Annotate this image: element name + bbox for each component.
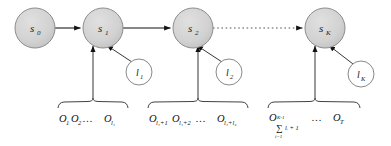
obs-token-sub-2-3: l₁+l₂ — [224, 119, 237, 126]
state-circle-sK — [305, 8, 345, 48]
duration-node-l2[interactable]: l 2 — [216, 59, 242, 85]
brace-segment-3 — [268, 99, 360, 109]
duration-label-l2: l — [226, 67, 229, 78]
observation-text-segment-2: O l₁+1 O l₁+2 … O l₁+l₂ — [149, 113, 237, 126]
state-sublabel-s1: 1 — [105, 29, 109, 37]
obs-token-base-3-0: O — [269, 112, 277, 123]
obs-token-sub-2-0: l₁+1 — [156, 119, 168, 126]
summation-upper-limit: K-1 — [276, 115, 285, 120]
duration-circle-l2 — [216, 59, 242, 85]
state-node-s0[interactable]: s 0 — [15, 8, 55, 48]
state-label-s0: s — [30, 22, 34, 34]
state-node-s1[interactable]: s 1 — [83, 8, 123, 48]
hsmm-state-diagram: s 0 s 1 s 2 s K l 1 l 2 l K O 1 O — [0, 0, 391, 146]
obs-token-sub-2-1: l₁+2 — [179, 119, 191, 126]
duration-arrow-l1 — [107, 46, 132, 63]
duration-circle-l1 — [126, 59, 152, 85]
brace-segment-1 — [58, 99, 128, 109]
state-label-s1: s — [98, 22, 102, 34]
state-sublabel-s0: 0 — [37, 29, 41, 37]
observation-segment-3: O K-1 ∑ i=1 lᵢ + 1 … O T — [268, 99, 360, 140]
state-label-sK: s — [319, 22, 323, 34]
obs-token-sub-1-3: l₁ — [111, 119, 115, 126]
obs-token-base-1-2: … — [83, 113, 92, 124]
observation-segment-2: O l₁+1 O l₁+2 … O l₁+l₂ — [148, 99, 248, 127]
duration-sublabel-lK: K — [360, 75, 366, 82]
state-node-sK[interactable]: s K — [305, 8, 345, 48]
observation-text-segment-1: O 1 O 2 … O l₁ — [59, 113, 115, 126]
state-circle-s0 — [15, 8, 55, 48]
state-sublabel-sK: K — [325, 29, 331, 37]
obs-token-sub-1-0: 1 — [66, 119, 69, 126]
obs-token-base-3-1: … — [312, 112, 321, 123]
summation-body: lᵢ + 1 — [285, 124, 299, 131]
state-label-s2: s — [188, 22, 192, 34]
diagram-canvas: s 0 s 1 s 2 s K l 1 l 2 l K O 1 O — [0, 0, 391, 146]
duration-label-lK: l — [357, 69, 360, 80]
duration-arrow-l2 — [197, 46, 222, 63]
state-node-s2[interactable]: s 2 — [173, 8, 213, 48]
duration-node-l1[interactable]: l 1 — [126, 59, 152, 85]
duration-arrow-lK — [329, 46, 353, 65]
state-sublabel-s2: 2 — [195, 29, 199, 37]
obs-token-base-2-2: … — [196, 113, 205, 124]
state-circle-s1 — [83, 8, 123, 48]
summation-symbol: ∑ — [276, 123, 282, 133]
state-circle-s2 — [173, 8, 213, 48]
duration-node-lK[interactable]: l K — [348, 61, 374, 87]
observation-segment-1: O 1 O 2 … O l₁ — [58, 99, 128, 127]
summation-lower-limit: i=1 — [275, 134, 282, 139]
obs-token-sub-3-2: T — [340, 118, 344, 125]
obs-token-sub-1-1: 2 — [78, 119, 82, 126]
observation-text-segment-3: O K-1 ∑ i=1 lᵢ + 1 … O T — [269, 112, 344, 139]
duration-label-l1: l — [136, 67, 139, 78]
duration-sublabel-l1: 1 — [140, 73, 143, 80]
brace-segment-2 — [148, 99, 248, 109]
